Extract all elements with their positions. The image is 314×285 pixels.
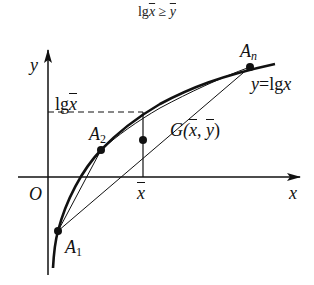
chord-a1-a2 xyxy=(58,150,101,231)
point-an xyxy=(246,63,254,71)
lgxbar-var: x xyxy=(69,94,77,114)
point-a1 xyxy=(54,227,62,235)
a2-label: A2 xyxy=(89,125,106,145)
xbar-label: x xyxy=(137,184,145,202)
point-a2 xyxy=(97,146,105,154)
an-label: An xyxy=(240,42,257,62)
a1-sub: 1 xyxy=(76,245,82,259)
g-sep: , xyxy=(197,120,206,140)
curve-y: y xyxy=(251,74,259,94)
curve-eq: =lg xyxy=(259,74,283,94)
g-ybar: y xyxy=(206,120,214,140)
y-axis-label: y xyxy=(30,56,38,74)
lgxbar-label: lgx xyxy=(55,95,77,113)
curve-equation-label: y=lgx xyxy=(251,75,291,93)
a2-base: A xyxy=(89,124,100,144)
a1-base: A xyxy=(65,237,76,257)
an-base: A xyxy=(240,41,251,61)
g-prefix: G( xyxy=(170,120,189,140)
x-axis-label: x xyxy=(289,184,297,202)
g-xbar: x xyxy=(189,120,197,140)
a1-label: A1 xyxy=(65,238,82,258)
log-concavity-diagram xyxy=(0,0,314,285)
lgxbar-prefix: lg xyxy=(55,94,69,114)
an-sub: n xyxy=(251,49,257,63)
chord-a1-an xyxy=(58,67,250,231)
curve-x: x xyxy=(283,74,291,94)
point-g xyxy=(139,136,147,144)
origin-label: O xyxy=(29,185,42,203)
a2-sub: 2 xyxy=(100,132,106,146)
xbar-var: x xyxy=(137,183,145,203)
g-suffix: ) xyxy=(214,120,220,140)
log-curve xyxy=(53,64,275,268)
g-label: G(x, y) xyxy=(170,121,220,139)
